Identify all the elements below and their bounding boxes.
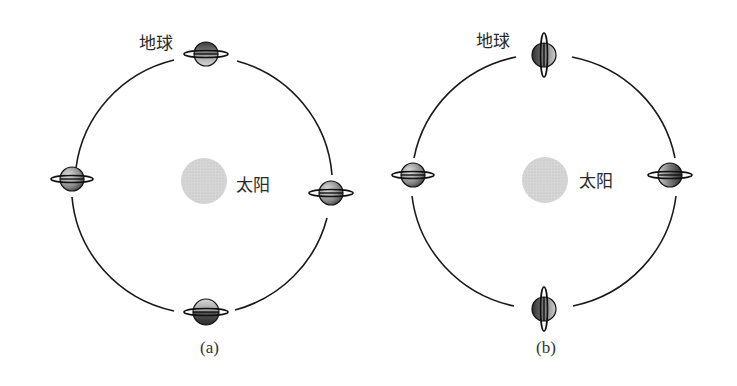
earth-label-a: 地球: [139, 35, 173, 52]
sun-label-b: 太阳: [579, 173, 613, 190]
earth-a-left: [51, 167, 93, 191]
earth-b-left: [392, 163, 434, 187]
earth-a-right: [309, 181, 353, 205]
earth-label-b: 地球: [476, 33, 510, 50]
panel-b: [392, 33, 692, 331]
earth-b-top: [532, 33, 556, 77]
earth-a-top: [184, 42, 228, 66]
caption-b: (b): [536, 339, 556, 356]
sun-b: [522, 157, 568, 203]
orbit-diagram: [0, 0, 737, 386]
sun-label-a: 太阳: [236, 177, 270, 194]
caption-a: (a): [200, 339, 219, 356]
sun-a: [181, 158, 227, 204]
earth-b-bottom: [532, 287, 556, 331]
earth-b-right: [648, 163, 692, 187]
earth-a-bottom: [184, 299, 228, 325]
panel-a: [51, 42, 353, 325]
